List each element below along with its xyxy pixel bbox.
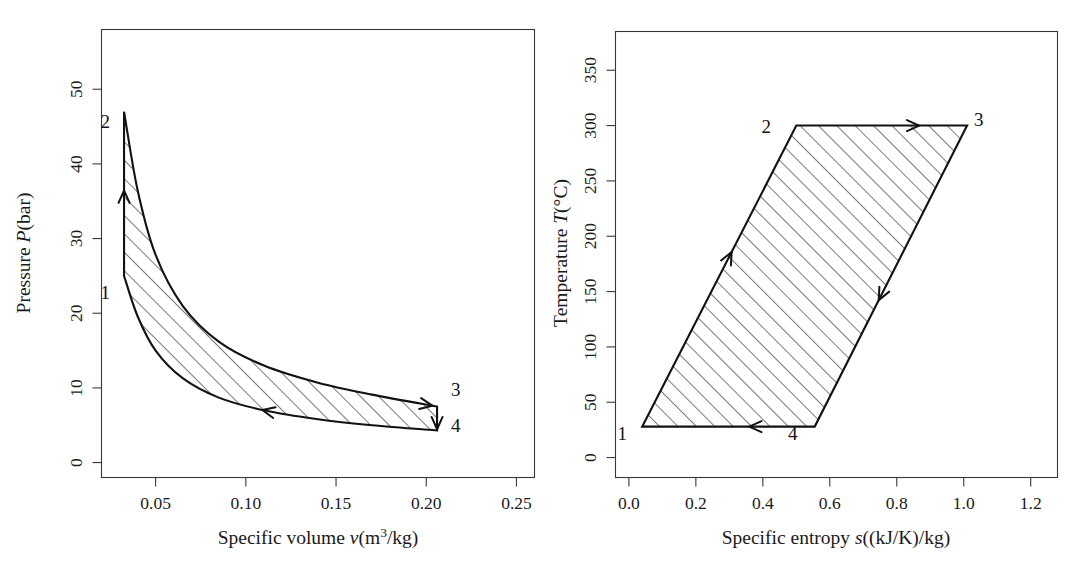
pv-diagram-panel: 0.050.100.150.200.25 01020304050 1 2 3 4… xyxy=(0,0,545,586)
figure-container: 0.050.100.150.200.25 01020304050 1 2 3 4… xyxy=(0,0,1089,586)
pv-hatched-area xyxy=(124,112,437,431)
pv-y-axis-ticks: 01020304050 xyxy=(66,80,102,467)
x-tick-label: 0.8 xyxy=(886,493,908,513)
y-tick-label: 50 xyxy=(580,393,600,411)
y-tick-label: 30 xyxy=(66,230,86,248)
y-tick-label: 350 xyxy=(580,57,600,84)
y-tick-label: 100 xyxy=(580,334,600,361)
ts-y-axis-ticks: 050100150200250300350 xyxy=(580,57,616,462)
ts-state-label-2: 2 xyxy=(762,116,772,137)
y-tick-label: 150 xyxy=(580,278,600,305)
x-tick-label: 0.0 xyxy=(618,493,640,513)
x-tick-label: 1.0 xyxy=(953,493,975,513)
ts-diagram-svg: 0.00.20.40.60.81.01.2 050100150200250300… xyxy=(545,0,1089,586)
ts-state-label-3: 3 xyxy=(974,109,984,130)
y-tick-label: 50 xyxy=(66,80,86,98)
pv-diagram-svg: 0.050.100.150.200.25 01020304050 1 2 3 4… xyxy=(0,0,545,586)
y-tick-label: 10 xyxy=(66,379,86,397)
pv-state-label-4: 4 xyxy=(451,415,461,436)
pv-state-label-1: 1 xyxy=(101,282,111,303)
y-tick-label: 40 xyxy=(66,155,86,173)
pv-state-label-3: 3 xyxy=(451,379,461,400)
x-tick-label: 0.6 xyxy=(819,493,841,513)
ts-y-axis-title: Temperature T(°C) xyxy=(550,179,572,327)
x-tick-label: 0.10 xyxy=(231,493,262,513)
x-tick-label: 0.15 xyxy=(321,493,352,513)
ts-state-label-4: 4 xyxy=(788,423,798,444)
x-tick-label: 0.05 xyxy=(140,493,171,513)
x-tick-label: 0.25 xyxy=(501,493,532,513)
x-tick-label: 0.2 xyxy=(685,493,707,513)
pv-state-label-2: 2 xyxy=(101,111,111,132)
pv-x-axis-title: Specific volume v(m3/kg) xyxy=(218,525,419,549)
y-tick-label: 200 xyxy=(580,223,600,250)
x-tick-label: 0.4 xyxy=(752,493,774,513)
ts-diagram-panel: 0.00.20.40.60.81.01.2 050100150200250300… xyxy=(545,0,1089,586)
pv-x-axis-ticks: 0.050.100.150.200.25 xyxy=(140,478,532,513)
ts-x-axis-title: Specific entropy s((kJ/K)/kg) xyxy=(722,527,951,549)
x-tick-label: 1.2 xyxy=(1020,493,1042,513)
x-tick-label: 0.20 xyxy=(411,493,442,513)
y-tick-label: 20 xyxy=(66,304,86,322)
ts-state-label-1: 1 xyxy=(618,423,628,444)
y-tick-label: 300 xyxy=(580,112,600,139)
ts-hatched-area xyxy=(642,126,967,427)
pv-y-axis-title: Pressure P(bar) xyxy=(13,193,35,314)
y-tick-label: 250 xyxy=(580,168,600,195)
ts-x-axis-ticks: 0.00.20.40.60.81.01.2 xyxy=(618,478,1042,513)
y-tick-label: 0 xyxy=(580,453,600,462)
y-tick-label: 0 xyxy=(66,458,86,467)
